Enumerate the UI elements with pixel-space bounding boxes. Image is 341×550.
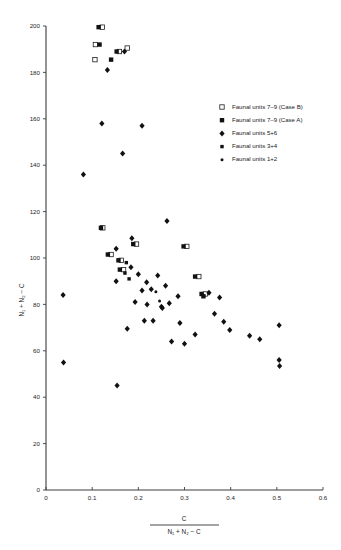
data-point (217, 294, 222, 300)
data-point (136, 271, 141, 277)
data-point (139, 123, 144, 129)
y-axis-title: N₁ + N₂ − C (18, 283, 25, 316)
x-tick-label: 0.3 (180, 494, 189, 501)
data-point (149, 286, 154, 292)
x-axis-ticks: 00.10.20.30.40.50.6 (44, 487, 328, 501)
data-point (133, 299, 138, 305)
data-point (129, 235, 134, 241)
legend-marker-filled-square-icon (220, 118, 224, 122)
scatter-plot-canvas: 020406080100120140160180200 00.10.20.30.… (0, 0, 341, 550)
data-point (221, 319, 226, 325)
legend-label: Faunal units 1+2 (232, 155, 278, 162)
x-axis-title: C N₁ + N₂ − C (150, 515, 219, 535)
y-tick-label: 160 (30, 115, 41, 122)
data-point (97, 42, 101, 46)
axis-group (46, 26, 323, 490)
y-tick-label: 200 (30, 22, 41, 29)
data-point (105, 67, 110, 73)
data-point (277, 357, 282, 363)
data-point (154, 290, 157, 293)
y-axis-ticks: 020406080100120140160180200 (30, 22, 46, 493)
data-point (201, 294, 205, 298)
data-point (175, 293, 180, 299)
legend-item-2: Faunal units 5+6 (219, 129, 277, 136)
x-tick-label: 0.2 (134, 494, 143, 501)
legend: Faunal units 7–9 (Case B)Faunal units 7–… (219, 103, 302, 163)
x-tick-label: 0.5 (273, 494, 282, 501)
legend-marker-open-square-icon (220, 105, 224, 109)
y-tick-label: 20 (33, 440, 40, 447)
data-point (131, 242, 135, 246)
data-point (109, 57, 113, 61)
series-4 (154, 290, 161, 302)
x-tick-label: 0.6 (319, 494, 328, 501)
legend-item-1: Faunal units 7–9 (Case A) (220, 116, 303, 123)
data-point (182, 341, 187, 347)
data-point (128, 264, 133, 270)
data-point (120, 151, 125, 157)
data-point (125, 326, 130, 332)
y-axis-title-text: N₁ + N₂ − C (18, 283, 25, 316)
x-tick-label: 0 (44, 494, 48, 501)
data-point (193, 274, 197, 278)
data-point (277, 363, 282, 369)
legend-marker-small-dot-icon (221, 158, 224, 161)
data-point (99, 120, 104, 126)
data-point (114, 49, 118, 53)
data-point (158, 299, 161, 302)
legend-marker-filled-diamond-icon (219, 130, 224, 136)
data-point (212, 311, 217, 317)
y-tick-label: 80 (33, 301, 40, 308)
data-point (127, 277, 130, 280)
legend-item-4: Faunal units 1+2 (221, 155, 278, 162)
data-point (164, 218, 169, 224)
data-point (151, 318, 156, 324)
data-point (60, 292, 65, 298)
x-axis-numerator: C (182, 515, 187, 522)
data-point (125, 261, 128, 264)
data-point (181, 244, 185, 248)
data-point (227, 327, 232, 333)
series-2 (60, 49, 282, 389)
y-tick-label: 0 (37, 486, 41, 493)
y-tick-label: 40 (33, 393, 40, 400)
data-point (114, 278, 119, 284)
y-tick-label: 120 (30, 208, 41, 215)
data-point (193, 332, 198, 338)
data-point (125, 46, 129, 50)
data-point (81, 171, 86, 177)
data-point (155, 272, 160, 278)
data-point (177, 320, 182, 326)
data-point (145, 301, 150, 307)
data-point (257, 336, 262, 342)
scatter-plot-figure: 020406080100120140160180200 00.10.20.30.… (0, 0, 341, 550)
legend-marker-small-filled-square-icon (220, 145, 223, 148)
data-point (114, 383, 119, 389)
y-tick-label: 180 (30, 69, 41, 76)
data-point (247, 333, 252, 339)
data-point (93, 57, 97, 61)
data-point (277, 322, 282, 328)
data-point (106, 252, 110, 256)
data-point (93, 42, 97, 46)
data-point (167, 300, 172, 306)
legend-label: Faunal units 7–9 (Case B) (232, 103, 303, 110)
series-1 (96, 25, 205, 299)
data-point (118, 267, 122, 271)
legend-item-0: Faunal units 7–9 (Case B) (220, 103, 303, 110)
legend-item-3: Faunal units 3+4 (220, 142, 278, 149)
data-point (114, 246, 119, 252)
data-points-group (60, 25, 282, 389)
data-point (144, 279, 149, 285)
data-point (61, 359, 66, 365)
data-point (169, 339, 174, 345)
legend-label: Faunal units 7–9 (Case A) (232, 116, 302, 123)
x-tick-label: 0.1 (88, 494, 97, 501)
y-tick-label: 100 (30, 254, 41, 261)
data-point (163, 283, 168, 289)
y-tick-label: 60 (33, 347, 40, 354)
legend-label: Faunal units 3+4 (232, 142, 278, 149)
data-point (142, 318, 147, 324)
data-point (139, 287, 144, 293)
data-point (116, 258, 120, 262)
